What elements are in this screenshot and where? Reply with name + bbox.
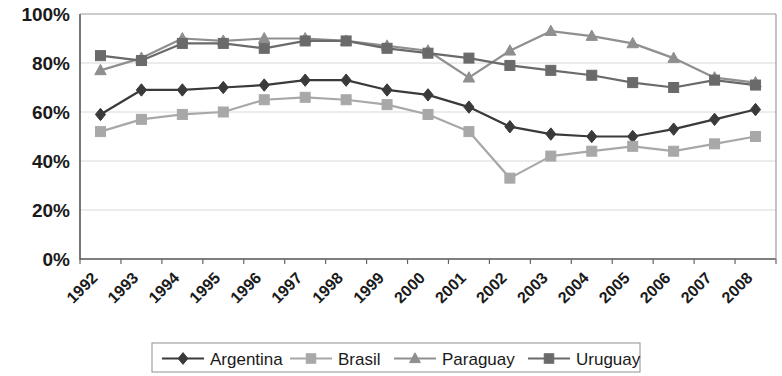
data-point-marker-square [669,146,679,156]
legend-item-argentina[interactable]: Argentina [162,350,283,369]
x-axis-tick-label: 1994 [145,269,182,306]
legend-item-brasil[interactable]: Brasil [290,350,381,369]
x-axis-tick-label: 1998 [309,269,346,306]
y-axis-tick-label: 80% [32,53,70,74]
data-point-marker-square [710,139,720,149]
legend-item-label: Uruguay [576,350,641,369]
data-point-marker-square [628,78,638,88]
data-point-marker-triangle [463,72,474,82]
data-point-marker-diamond [382,84,392,96]
data-point-marker-square [382,100,392,110]
data-point-marker-square [95,127,105,137]
legend-item-label: Brasil [338,350,381,369]
data-point-marker-diamond [178,353,188,365]
data-point-marker-square [751,80,761,90]
x-axis-tick-label: 2008 [718,269,755,306]
data-point-marker-square [341,95,351,105]
legend-item-label: Paraguay [442,350,515,369]
data-point-marker-square [136,56,146,66]
data-point-marker-diamond [341,74,351,86]
data-point-marker-square [300,36,310,46]
data-point-marker-square [218,38,228,48]
series-layer [95,25,761,183]
x-axis-tick-label: 2002 [473,269,510,306]
x-axis-tick-label: 2000 [391,269,428,306]
data-point-marker-diamond [587,130,597,142]
y-axis-tick-label: 40% [32,151,70,172]
data-point-marker-diamond [300,74,310,86]
data-point-marker-diamond [464,101,474,113]
series-brasil [95,92,760,183]
x-axis-tick-label: 2001 [432,269,469,306]
data-point-marker-diamond [750,103,760,115]
x-axis-tick-label: 2005 [596,269,633,306]
data-point-marker-diamond [177,84,187,96]
x-axis-tick-label: 1999 [350,269,387,306]
data-point-marker-square [382,43,392,53]
data-point-marker-square [423,48,433,58]
line-chart: 0%20%40%60%80%100% 199219931994199519961… [0,0,782,376]
data-point-marker-square [669,83,679,93]
data-point-marker-diamond [95,108,105,120]
data-point-marker-square [505,173,515,183]
x-axis-tick-label: 2007 [678,269,715,306]
y-axis-tick-label: 20% [32,200,70,221]
data-point-marker-square [177,109,187,119]
data-point-marker-diamond [136,84,146,96]
data-point-marker-square [587,146,597,156]
y-axis-tick-label: 60% [32,102,70,123]
legend-item-uruguay[interactable]: Uruguay [528,350,641,369]
legend-item-label: Argentina [210,350,283,369]
data-point-marker-diamond [710,113,720,125]
data-point-marker-square [341,36,351,46]
x-axis-tick-label: 2006 [637,269,674,306]
data-point-marker-diamond [423,89,433,101]
data-point-marker-square [306,354,316,364]
data-point-marker-square [464,53,474,63]
data-point-marker-square [218,107,228,117]
x-axis-tick-labels: 1992199319941995199619971998199920002001… [63,269,755,306]
y-axis-tick-label: 0% [43,249,71,270]
x-axis-tick-label: 1993 [104,269,141,306]
x-axis-tick-label: 1996 [227,269,264,306]
x-axis-tick-label: 2004 [555,269,592,306]
data-point-marker-diamond [259,79,269,91]
y-axis-tick-labels: 0%20%40%60%80%100% [21,4,70,270]
x-axis-tick-label: 1992 [63,269,100,306]
data-point-marker-diamond [218,81,228,93]
x-axis-tick-label: 2003 [514,269,551,306]
data-point-marker-square [505,60,515,70]
x-axis-tick-label: 1997 [268,269,305,306]
data-point-marker-diamond [505,121,515,133]
data-point-marker-square [177,38,187,48]
data-point-marker-square [544,354,554,364]
data-point-marker-square [259,43,269,53]
data-point-marker-square [259,95,269,105]
legend-item-paraguay[interactable]: Paraguay [394,350,515,369]
series-argentina [95,74,760,143]
data-point-marker-diamond [546,128,556,140]
data-point-marker-diamond [669,123,679,135]
data-point-marker-square [628,141,638,151]
data-point-marker-square [423,109,433,119]
chart-legend: ArgentinaBrasilParaguayUruguay [152,343,641,372]
y-axis-tick-label: 100% [21,4,70,25]
data-point-marker-square [136,114,146,124]
data-point-marker-square [546,151,556,161]
data-point-marker-square [95,51,105,61]
data-point-marker-square [300,92,310,102]
data-point-marker-triangle [545,25,556,35]
data-point-marker-square [587,70,597,80]
data-point-marker-square [464,127,474,137]
data-point-marker-square [546,65,556,75]
data-point-marker-square [710,75,720,85]
data-point-marker-square [751,132,761,142]
x-axis-tick-label: 1995 [186,269,223,306]
chart-canvas: 0%20%40%60%80%100% 199219931994199519961… [0,0,782,376]
